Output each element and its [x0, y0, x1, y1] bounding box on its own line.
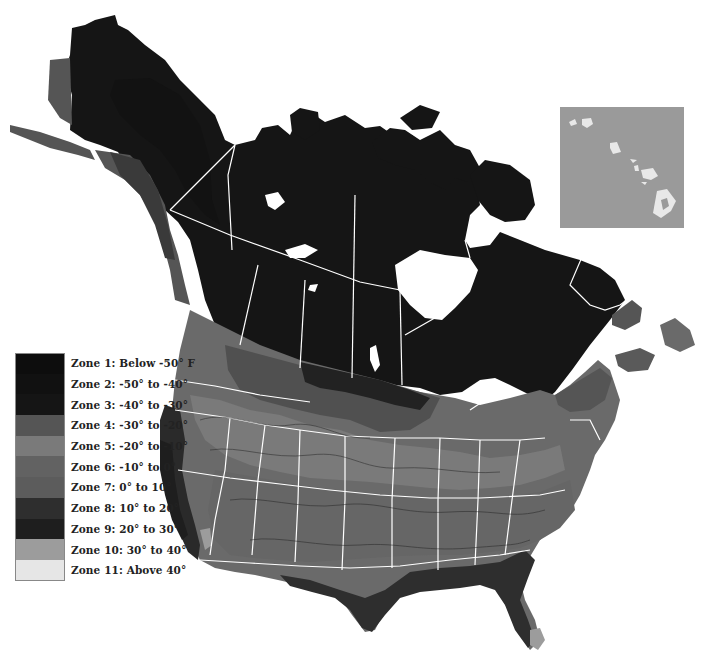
legend-item-zone-8: Zone 8: 10° to 20°	[15, 498, 195, 519]
legend-item-zone-7: Zone 7: 0° to 10°	[15, 477, 195, 498]
legend-swatch	[15, 374, 65, 395]
hawaii-islands	[561, 108, 683, 227]
legend-label: Zone 1: Below -50° F	[71, 357, 195, 369]
legend-item-zone-11: Zone 11: Above 40°	[15, 560, 195, 581]
legend-swatch	[15, 456, 65, 477]
legend-swatch	[15, 415, 65, 436]
legend-label: Zone 4: -30° to -20°	[71, 419, 188, 431]
legend-label: Zone 7: 0° to 10°	[71, 481, 172, 493]
legend-label: Zone 5: -20° to -10°	[71, 440, 188, 452]
legend-swatch	[15, 539, 65, 560]
legend-swatch	[15, 353, 65, 374]
legend-item-zone-2: Zone 2: -50° to -40°	[15, 374, 195, 395]
legend-swatch	[15, 394, 65, 415]
legend-label: Zone 10: 30° to 40°	[71, 544, 187, 556]
hawaii-inset	[560, 107, 684, 228]
legend-swatch	[15, 560, 65, 581]
legend-item-zone-3: Zone 3: -40° to -30°	[15, 394, 195, 415]
legend-label: Zone 8: 10° to 20°	[71, 502, 179, 514]
canada-alaska-region	[10, 15, 625, 405]
legend-label: Zone 11: Above 40°	[71, 564, 186, 576]
legend-label: Zone 3: -40° to -30°	[71, 399, 188, 411]
legend-swatch	[15, 519, 65, 540]
legend-label: Zone 2: -50° to -40°	[71, 378, 188, 390]
legend-item-zone-4: Zone 4: -30° to -20°	[15, 415, 195, 436]
zone-legend: Zone 1: Below -50° F Zone 2: -50° to -40…	[15, 353, 195, 581]
legend-swatch	[15, 477, 65, 498]
legend-item-zone-5: Zone 5: -20° to -10°	[15, 436, 195, 457]
hardiness-zone-map: Zone 1: Below -50° F Zone 2: -50° to -40…	[0, 0, 723, 665]
legend-item-zone-6: Zone 6: -10° to 0°	[15, 456, 195, 477]
legend-label: Zone 9: 20° to 30°	[71, 523, 179, 535]
legend-swatch	[15, 498, 65, 519]
legend-item-zone-1: Zone 1: Below -50° F	[15, 353, 195, 374]
legend-item-zone-10: Zone 10: 30° to 40°	[15, 539, 195, 560]
legend-item-zone-9: Zone 9: 20° to 30°	[15, 519, 195, 540]
legend-swatch	[15, 436, 65, 457]
legend-label: Zone 6: -10° to 0°	[71, 461, 176, 473]
